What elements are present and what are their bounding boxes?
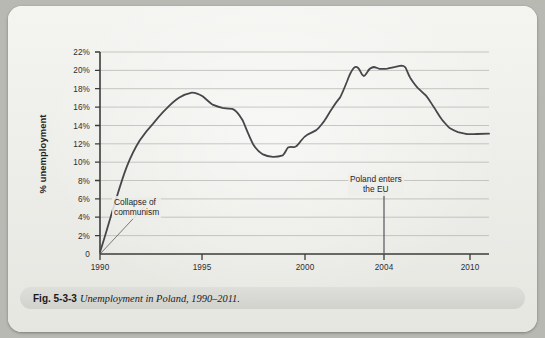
y-tick-label-0: 0: [66, 250, 90, 259]
y-tick-label-10: 10%: [58, 158, 90, 167]
figure-caption-bar: Fig. 5-3-3Unemployment in Poland, 1990–2…: [20, 287, 525, 309]
annotation-eu-line1: Poland enters: [350, 174, 402, 184]
y-tick-label-22: 22%: [58, 48, 90, 57]
y-axis-title: % unemployment: [37, 114, 48, 193]
y-tick-label-8: 8%: [62, 176, 90, 185]
y-tick-label-16: 16%: [58, 103, 90, 112]
x-tick-label-2000: 2000: [296, 263, 315, 272]
annotation-communism-line2: communism: [114, 207, 159, 217]
y-tick-label-20: 20%: [58, 66, 90, 75]
y-tick-label-4: 4%: [62, 213, 90, 222]
figure-number: Fig. 5-3-3: [33, 293, 77, 304]
annotation-communism-line1: Collapse of: [114, 197, 159, 207]
unemployment-line: [100, 66, 489, 252]
y-tick-label-2: 2%: [62, 231, 90, 240]
figure-caption: Fig. 5-3-3Unemployment in Poland, 1990–2…: [20, 293, 240, 304]
x-tick-marks: [100, 254, 470, 260]
y-tick-label-14: 14%: [58, 121, 90, 130]
x-tick-label-1990: 1990: [91, 263, 110, 272]
annotation-collapse-of-communism: Collapse of communism: [112, 196, 161, 219]
annotation-eu-line2: the EU: [350, 184, 402, 194]
y-tick-label-6: 6%: [62, 194, 90, 203]
y-tick-label-18: 18%: [58, 84, 90, 93]
x-tick-label-2004: 2004: [375, 263, 394, 272]
chart-plot-area: % unemployment 0 2% 4% 6% 8% 10% 12% 14%…: [8, 6, 537, 278]
annotation-poland-enters-eu: Poland enters the EU: [348, 173, 404, 196]
x-tick-label-2010: 2010: [461, 263, 480, 272]
figure-caption-title: Unemployment in Poland, 1990–2011.: [80, 293, 240, 304]
x-tick-label-1995: 1995: [193, 263, 212, 272]
axes: [100, 52, 489, 254]
y-tick-label-12: 12%: [58, 139, 90, 148]
figure-card: % unemployment 0 2% 4% 6% 8% 10% 12% 14%…: [8, 6, 537, 332]
